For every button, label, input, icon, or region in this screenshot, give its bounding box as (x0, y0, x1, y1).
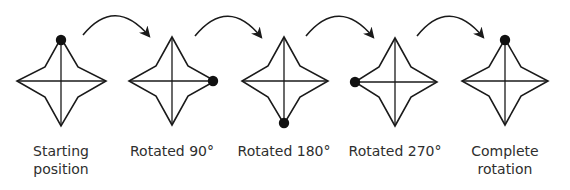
star-shape-rotated-270 (350, 38, 437, 126)
marker-dot-icon (279, 118, 289, 128)
star-shape-rotated-90 (129, 37, 218, 125)
label-line-2: position (6, 160, 116, 178)
star-shape-starting (17, 35, 106, 126)
label-line-1: Rotated 180° (229, 142, 339, 160)
stage-label-rotated-270: Rotated 270° (340, 142, 450, 160)
curved-arrow-icon (417, 16, 483, 37)
stage-label-rotated-180: Rotated 180° (229, 142, 339, 160)
label-line-1: Complete (450, 142, 560, 160)
curved-arrow-icon (83, 16, 149, 36)
label-line-2: rotation (450, 160, 560, 178)
marker-dot-icon (56, 35, 66, 45)
marker-dot-icon (208, 76, 218, 86)
curved-arrow-icon (195, 16, 261, 37)
marker-dot-icon (500, 35, 510, 45)
marker-dot-icon (350, 77, 360, 87)
curved-arrow-icon (306, 16, 373, 37)
stage-label-complete: Complete rotation (450, 142, 560, 178)
label-line-1: Rotated 90° (117, 142, 227, 160)
label-line-1: Starting (6, 142, 116, 160)
star-shape-complete (462, 35, 548, 125)
stage-label-rotated-90: Rotated 90° (117, 142, 227, 160)
stage-label-starting: Starting position (6, 142, 116, 178)
label-line-1: Rotated 270° (340, 142, 450, 160)
star-shape-rotated-180 (242, 37, 328, 128)
